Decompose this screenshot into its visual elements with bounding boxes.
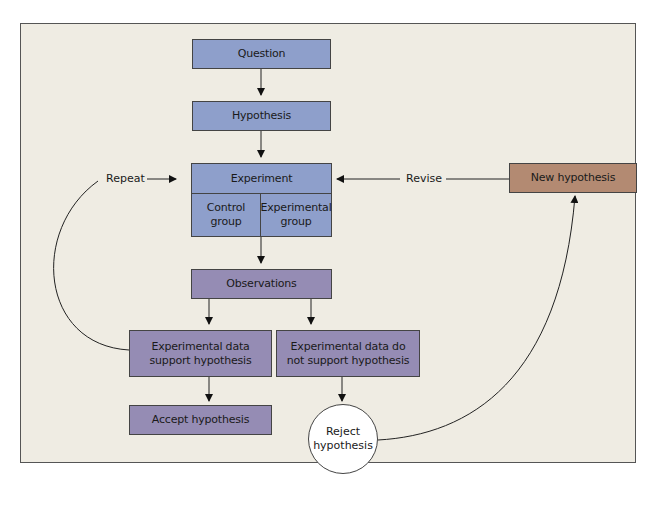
support-node: Experimental data support hypothesis: [129, 330, 272, 377]
not-support-label: Experimental data do not support hypothe…: [283, 340, 413, 368]
support-label: Experimental data support hypothesis: [144, 340, 257, 368]
repeat-label: Repeat: [106, 172, 145, 185]
accept-hypothesis-node: Accept hypothesis: [129, 405, 272, 435]
arrow-reject-to-new-hypothesis: [378, 196, 575, 440]
question-node: Question: [192, 39, 331, 69]
accept-hypothesis-label: Accept hypothesis: [152, 413, 249, 427]
experiment-header: Experiment: [192, 164, 331, 194]
observations-node: Observations: [191, 269, 332, 299]
hypothesis-node: Hypothesis: [192, 101, 331, 131]
hypothesis-label: Hypothesis: [232, 109, 291, 123]
reject-hypothesis-node: Reject hypothesis: [308, 404, 378, 474]
repeat-curve: [54, 181, 129, 350]
experiment-label: Experiment: [231, 172, 293, 186]
experiment-node: Experiment Control group Experimental gr…: [191, 163, 332, 237]
not-support-node: Experimental data do not support hypothe…: [276, 330, 420, 377]
experimental-group-cell: Experimental group: [261, 194, 331, 236]
new-hypothesis-label: New hypothesis: [531, 171, 615, 185]
control-group-label: Control group: [198, 201, 254, 229]
experimental-group-label: Experimental group: [261, 201, 332, 229]
observations-label: Observations: [226, 277, 296, 291]
revise-label: Revise: [406, 172, 442, 185]
control-group-cell: Control group: [192, 194, 261, 236]
reject-hypothesis-label: Reject hypothesis: [313, 425, 373, 453]
new-hypothesis-node: New hypothesis: [509, 163, 637, 193]
question-label: Question: [238, 47, 286, 61]
